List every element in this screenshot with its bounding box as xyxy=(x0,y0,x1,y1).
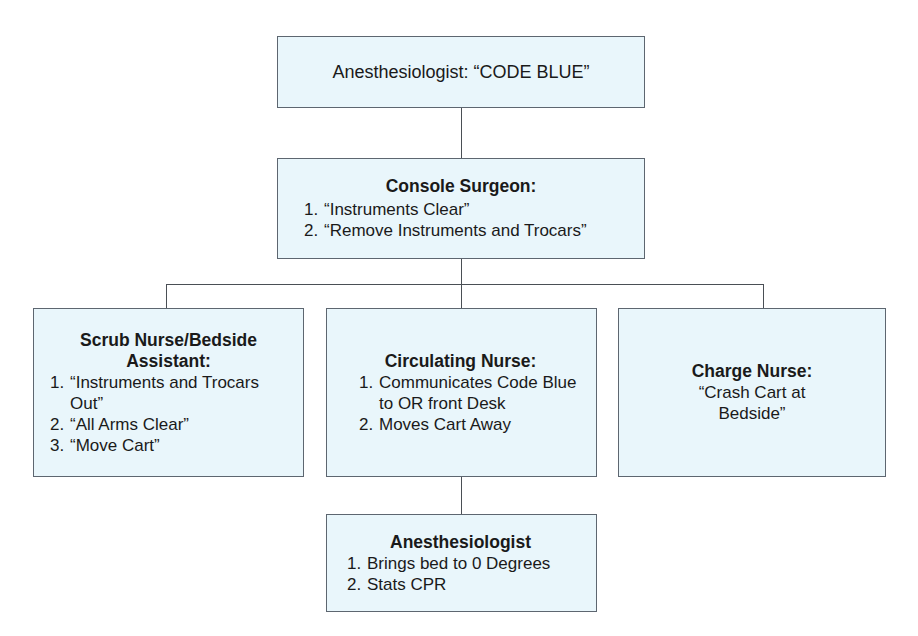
node-console-surgeon: Console Surgeon: 1. “Instruments Clear” … xyxy=(277,158,645,259)
node-anesthesiologist-actions: Anesthesiologist 1. Brings bed to 0 Degr… xyxy=(326,514,597,612)
step-text: Communicates Code Blue to OR front Desk xyxy=(379,372,586,414)
connector-branch-to-scrub xyxy=(166,284,167,308)
node-title-line2: Assistant: xyxy=(44,351,293,372)
step-number: 2. xyxy=(347,574,367,595)
step-number: 3. xyxy=(50,435,70,456)
step-text: Stats CPR xyxy=(367,574,586,595)
step-text: “All Arms Clear” xyxy=(70,414,293,435)
node-scrub-nurse: Scrub Nurse/Bedside Assistant: 1. “Instr… xyxy=(33,308,304,477)
node-charge-nurse: Charge Nurse: “Crash Cart at Bedside” xyxy=(618,308,886,477)
step-item: 2. “All Arms Clear” xyxy=(50,414,293,435)
connector-branch-horizontal xyxy=(166,284,764,285)
node-title: Anesthesiologist xyxy=(335,532,586,553)
node-anesthesiologist-code-blue: Anesthesiologist: “CODE BLUE” xyxy=(277,36,645,108)
step-number: 2. xyxy=(304,220,324,241)
step-number: 1. xyxy=(50,372,70,414)
step-item: 1. Brings bed to 0 Degrees xyxy=(347,553,586,574)
step-number: 2. xyxy=(359,414,379,435)
step-text: “Instruments Clear” xyxy=(324,199,644,220)
step-text: Moves Cart Away xyxy=(379,414,586,435)
step-list: 1. Communicates Code Blue to OR front De… xyxy=(359,372,586,435)
step-item: 1. Communicates Code Blue to OR front De… xyxy=(359,372,586,414)
step-item: 1. “Instruments and Trocars Out” xyxy=(50,372,293,414)
step-text: Brings bed to 0 Degrees xyxy=(367,553,586,574)
step-item: 2. “Remove Instruments and Trocars” xyxy=(304,220,644,241)
step-item: 2. Moves Cart Away xyxy=(359,414,586,435)
node-circulating-nurse: Circulating Nurse: 1. Communicates Code … xyxy=(326,308,597,477)
node-title: Charge Nurse: xyxy=(692,361,813,382)
step-text: “Move Cart” xyxy=(70,435,293,456)
node-text-line2: Bedside” xyxy=(718,403,785,424)
connector-branch-to-charge xyxy=(763,284,764,308)
step-item: 2. Stats CPR xyxy=(347,574,586,595)
step-item: 3. “Move Cart” xyxy=(50,435,293,456)
step-number: 1. xyxy=(304,199,324,220)
connector-top-to-console xyxy=(461,108,462,158)
step-number: 1. xyxy=(359,372,379,414)
step-list: 1. “Instruments and Trocars Out” 2. “All… xyxy=(50,372,293,456)
step-number: 2. xyxy=(50,414,70,435)
node-text-line1: “Crash Cart at xyxy=(699,382,806,403)
connector-circ-to-anesthesiologist xyxy=(461,477,462,514)
step-item: 1. “Instruments Clear” xyxy=(304,199,644,220)
step-list: 1. “Instruments Clear” 2. “Remove Instru… xyxy=(304,199,644,241)
node-title: Circulating Nurse: xyxy=(335,351,586,372)
node-title-line1: Scrub Nurse/Bedside xyxy=(44,330,293,351)
node-title: Console Surgeon: xyxy=(278,176,644,197)
step-list: 1. Brings bed to 0 Degrees 2. Stats CPR xyxy=(347,553,586,595)
step-number: 1. xyxy=(347,553,367,574)
step-text: “Instruments and Trocars Out” xyxy=(70,372,293,414)
step-text: “Remove Instruments and Trocars” xyxy=(324,220,644,241)
node-text: Anesthesiologist: “CODE BLUE” xyxy=(332,62,589,83)
